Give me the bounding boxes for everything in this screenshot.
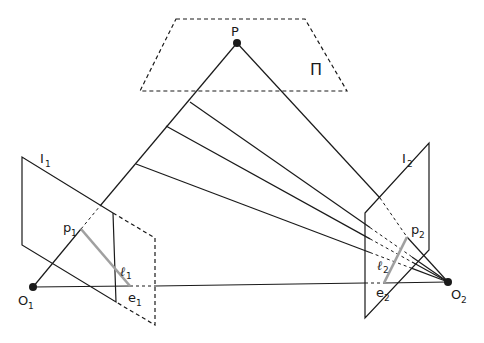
camera-center-o1-dot	[29, 283, 37, 291]
label-e2-sub: 2	[384, 293, 390, 303]
label-p2-sub: 2	[419, 230, 425, 240]
label-l2-sub: 2	[383, 265, 389, 275]
fan-ray-end-2	[412, 262, 448, 282]
epipolar-line-2	[384, 237, 407, 283]
label-i1: I	[40, 151, 44, 166]
label-i2: I	[402, 151, 406, 166]
fan-ray-end-1	[412, 257, 448, 282]
label-p: P	[231, 24, 239, 39]
ray-fan	[136, 102, 448, 282]
fan-ray-visible-3	[136, 164, 370, 253]
label-e1: e	[128, 290, 136, 305]
label-o1-sub: 1	[28, 301, 34, 311]
epipolar-diagram: P Π I 1 I 2 p 1 p 2 e 1 e 2 O 1 O 2 ℓ 1 …	[0, 0, 484, 343]
fan-ray-visible-1	[190, 102, 370, 228]
fan-ray-visible-2	[166, 126, 370, 239]
baseline-segment-c	[384, 282, 448, 283]
ray-p-o2-end	[407, 237, 448, 282]
camera-center-o2-dot	[444, 278, 452, 286]
label-i2-sub: 2	[407, 159, 413, 169]
baseline-segment-b	[155, 283, 365, 286]
point-p-dot	[233, 39, 241, 47]
label-p1-sub: 1	[71, 228, 77, 238]
label-o2: O	[451, 287, 461, 302]
label-i1-sub: 1	[45, 159, 51, 169]
ray-o1-p-segment-b	[100, 43, 237, 206]
epipolar-plane-pi	[140, 19, 347, 91]
ray-p-o2-visible	[237, 43, 380, 198]
label-pi: Π	[310, 60, 322, 79]
label-o2-sub: 2	[461, 295, 467, 305]
ray-o1-p-hidden	[81, 206, 100, 229]
ray-p-o2-hidden	[380, 198, 407, 237]
label-l1-sub: 1	[126, 271, 132, 281]
label-e2: e	[376, 285, 384, 300]
label-o1: O	[18, 293, 28, 308]
diagram-svg: P Π I 1 I 2 p 1 p 2 e 1 e 2 O 1 O 2 ℓ 1 …	[0, 0, 484, 343]
label-e1-sub: 1	[136, 298, 142, 308]
